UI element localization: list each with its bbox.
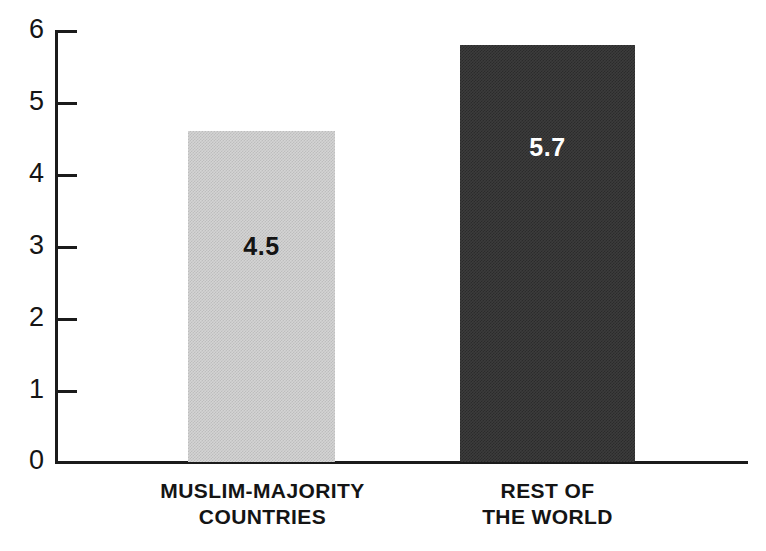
x-axis-line (55, 461, 748, 464)
y-tick-mark-1 (58, 390, 77, 393)
category-label-muslim-majority-countries: MUSLIM-MAJORITY COUNTRIES (110, 478, 415, 530)
category-label-line-1: MUSLIM-MAJORITY (110, 478, 415, 504)
y-tick-label-3: 3 (10, 232, 44, 259)
y-tick-label-4: 4 (10, 160, 44, 187)
y-tick-mark-2 (58, 318, 77, 321)
y-tick-mark-6 (58, 30, 77, 33)
bar-chart: 6 5 4 3 2 1 0 4.5 5.7 MUSLIM-MAJORITY CO… (0, 0, 766, 551)
category-label-line-2: COUNTRIES (110, 504, 415, 530)
bar-value-label-2: 5.7 (460, 133, 635, 162)
y-tick-mark-0 (58, 461, 77, 464)
y-tick-mark-4 (58, 174, 77, 177)
category-label-line-1: REST OF (430, 478, 665, 504)
category-label-rest-of-the-world: REST OF THE WORLD (430, 478, 665, 530)
y-tick-label-6: 6 (10, 16, 44, 43)
bar-muslim-majority-countries: 4.5 (188, 131, 335, 462)
y-tick-label-1: 1 (10, 376, 44, 403)
bar-rest-of-the-world: 5.7 (460, 45, 635, 462)
y-tick-mark-5 (58, 102, 77, 105)
y-tick-label-5: 5 (10, 88, 44, 115)
y-tick-label-0: 0 (10, 447, 44, 474)
category-label-line-2: THE WORLD (430, 504, 665, 530)
y-tick-mark-3 (58, 246, 77, 249)
bar-value-label-1: 4.5 (188, 232, 335, 261)
y-tick-label-2: 2 (10, 304, 44, 331)
